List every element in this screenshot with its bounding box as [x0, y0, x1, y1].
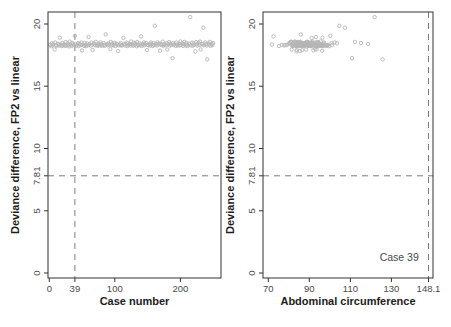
data-point: [80, 49, 83, 52]
data-point: [381, 58, 384, 61]
x-tick-label: 100: [107, 283, 123, 294]
y-axis-title: Deviance difference, FP2 vs linear: [9, 55, 21, 234]
y-axis-title: Deviance difference, FP2 vs linear: [224, 55, 236, 234]
data-point: [299, 33, 302, 36]
data-point: [359, 41, 362, 44]
data-point: [104, 33, 107, 36]
data-point: [58, 36, 61, 39]
data-point: [166, 48, 169, 51]
y-tick-label: 7.81: [246, 167, 257, 186]
plot-box: [48, 12, 221, 278]
y-tick-label: 5: [246, 208, 257, 213]
data-point: [122, 36, 125, 39]
y-tick-label: 10: [31, 143, 42, 154]
data-point: [87, 35, 90, 38]
data-point: [145, 48, 148, 51]
data-point: [373, 15, 376, 18]
data-point: [199, 48, 202, 51]
x-tick-label: 200: [172, 283, 188, 294]
y-tick-label: 7.81: [31, 167, 42, 186]
data-point: [353, 40, 356, 43]
data-point: [91, 48, 94, 51]
data-point: [194, 50, 197, 53]
data-point: [153, 24, 156, 27]
data-point: [158, 49, 161, 52]
x-tick-label: 148.1: [417, 283, 441, 294]
data-point: [304, 48, 307, 51]
data-point: [189, 15, 192, 18]
case-annotation: Case 39: [380, 251, 419, 263]
x-tick-label: 39: [70, 283, 81, 294]
data-point: [338, 24, 341, 27]
panel-case-number: 039100200057.81101520Case numberDeviance…: [9, 12, 221, 307]
x-tick-label: 130: [383, 283, 399, 294]
data-point: [171, 57, 174, 60]
data-point: [116, 49, 119, 52]
y-tick-label: 0: [246, 270, 257, 275]
data-point: [314, 35, 317, 38]
data-point: [320, 49, 323, 52]
y-tick-label: 20: [246, 19, 257, 30]
y-tick-label: 10: [246, 143, 257, 154]
y-tick-label: 0: [31, 270, 42, 275]
data-point: [366, 42, 369, 45]
data-point: [350, 57, 353, 60]
x-tick-label: 110: [343, 283, 358, 294]
data-point: [290, 48, 293, 51]
data-point: [329, 34, 332, 37]
x-axis-title: Abdominal circumference: [280, 295, 415, 307]
data-point: [139, 35, 142, 38]
x-tick-label: 0: [47, 283, 52, 294]
x-tick-label: 90: [304, 283, 315, 294]
data-point: [310, 36, 313, 39]
data-point: [321, 36, 324, 39]
data-point: [206, 58, 209, 61]
x-tick-label: 70: [263, 283, 274, 294]
data-point: [53, 48, 56, 51]
data-point: [272, 35, 275, 38]
data-point: [109, 47, 112, 50]
y-tick-label: 5: [31, 208, 42, 213]
data-point: [343, 26, 346, 29]
scatter-plots-svg: 039100200057.81101520Case numberDeviance…: [0, 0, 451, 327]
plot-box: [263, 12, 433, 278]
y-tick-label: 20: [31, 19, 42, 30]
data-point: [202, 26, 205, 29]
deviance-difference-figure: 039100200057.81101520Case numberDeviance…: [0, 0, 451, 327]
y-tick-label: 15: [246, 81, 257, 92]
panel-abdominal-circumference: 7090110130148.1057.81101520Abdominal cir…: [224, 12, 440, 307]
y-tick-label: 15: [31, 81, 42, 92]
x-axis-title: Case number: [100, 295, 170, 307]
data-point: [270, 43, 273, 46]
